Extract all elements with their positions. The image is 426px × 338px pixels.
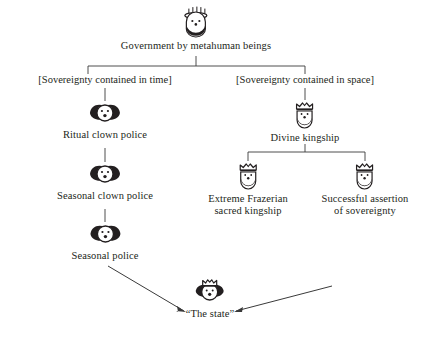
wire-seasonal-police-to-state	[108, 266, 184, 311]
haloed-metahuman-icon	[179, 4, 213, 38]
node-seasonal-police-label: Seasonal police	[71, 250, 138, 262]
crowned-king-icon	[235, 161, 261, 191]
clown-face-icon	[88, 162, 122, 188]
node-successful-assertion-of-sovereignty[interactable]: Successful assertion of sovereignty	[322, 161, 409, 217]
crowned-king-icon	[352, 161, 378, 191]
clown-face-icon	[88, 101, 122, 127]
clown-face-icon	[88, 222, 122, 248]
arrowhead-right-to-state	[234, 307, 244, 312]
arrowhead-left-to-state	[176, 306, 186, 312]
node-successful-assertion-line2: of sovereignty	[322, 205, 409, 217]
crowned-king-icon	[292, 100, 318, 130]
node-extreme-frazerian-line1: Extreme Frazerian	[208, 193, 288, 205]
diagram-canvas: Government by metahuman beings [Sovereig…	[0, 0, 426, 338]
node-divine-kingship-label: Divine kingship	[271, 132, 340, 144]
node-successful-assertion-line1: Successful assertion	[322, 193, 409, 205]
node-the-state[interactable]: “The state”	[186, 278, 235, 320]
node-seasonal-police[interactable]: Seasonal police	[71, 222, 138, 262]
node-ritual-clown-police-label: Ritual clown police	[63, 129, 147, 141]
wire-successful-assertion-to-state	[236, 286, 332, 311]
branch-label-left-text: [Sovereignty contained in time]	[38, 74, 171, 85]
node-seasonal-clown-police[interactable]: Seasonal clown police	[57, 162, 153, 202]
node-extreme-frazerian-sacred-kingship[interactable]: Extreme Frazerian sacred kingship	[208, 161, 288, 217]
branch-label-right: [Sovereignty contained in space]	[236, 74, 374, 85]
node-root[interactable]: Government by metahuman beings	[121, 4, 271, 52]
node-the-state-label: “The state”	[186, 308, 235, 320]
branch-label-left: [Sovereignty contained in time]	[38, 74, 171, 85]
node-root-label: Government by metahuman beings	[121, 40, 271, 52]
branch-label-right-text: [Sovereignty contained in space]	[236, 74, 374, 85]
node-divine-kingship[interactable]: Divine kingship	[271, 100, 340, 144]
node-extreme-frazerian-line2: sacred kingship	[208, 205, 288, 217]
node-ritual-clown-police[interactable]: Ritual clown police	[63, 101, 147, 141]
node-seasonal-clown-police-label: Seasonal clown police	[57, 190, 153, 202]
crowned-clown-state-icon	[192, 278, 228, 306]
